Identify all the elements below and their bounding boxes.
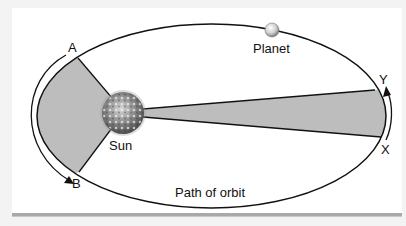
figure-frame: A B Y X Sun Planet Path of orbit (0, 0, 406, 226)
label-b: B (72, 177, 81, 190)
sector-xy (140, 88, 400, 140)
label-sun: Sun (109, 139, 132, 152)
label-x: X (381, 143, 390, 156)
planet-icon (265, 23, 279, 37)
label-y: Y (379, 73, 388, 86)
label-orbit: Path of orbit (175, 186, 245, 199)
arrowhead-y-icon (383, 86, 391, 97)
label-a: A (68, 41, 77, 54)
label-planet: Planet (253, 42, 290, 55)
sun-icon (100, 90, 146, 136)
arc-arrow-xy (386, 93, 392, 140)
